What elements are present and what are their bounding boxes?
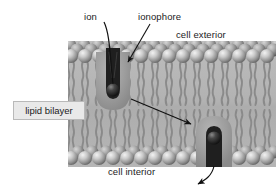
upper-ion-sphere xyxy=(107,84,120,97)
membrane-illustration xyxy=(0,0,276,189)
release-arrow xyxy=(198,166,214,184)
label-lipid-bilayer: lipid bilayer xyxy=(13,101,85,120)
label-ion: ion xyxy=(84,11,97,22)
outer-leaflet-front-heads xyxy=(64,49,274,63)
lower-ionophore xyxy=(196,116,232,167)
lower-ion-sphere xyxy=(207,131,220,144)
diagram-canvas: ion ionophore cell exterior cell interio… xyxy=(0,0,276,189)
lipid-bilayer-body xyxy=(64,39,276,167)
label-cell-exterior: cell exterior xyxy=(176,29,226,40)
label-ionophore: ionophore xyxy=(138,11,181,22)
inner-leaflet-front-heads xyxy=(64,151,274,165)
label-cell-interior: cell interior xyxy=(108,166,155,177)
